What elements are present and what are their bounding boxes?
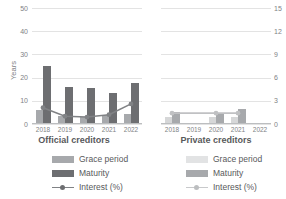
- interest-data-point: [170, 111, 175, 116]
- legend-marker-interest-official: [52, 184, 74, 191]
- chart-root: 50 40 30 20 10 0 Years 20182019202020212…: [0, 0, 286, 199]
- panel-official-creditors: 50 40 30 20 10 0 Years 20182019202020212…: [0, 0, 150, 140]
- plot-area-private: [161, 8, 271, 124]
- y-tick-right-1: 12: [274, 28, 286, 35]
- legend-swatch-grace-period-private: [186, 156, 208, 163]
- legend-swatch-grace-period-official: [52, 156, 74, 163]
- panel-title-official: Official creditors: [14, 135, 134, 145]
- panel-private-creditors: 15 12 9 6 3 0 20182019202020212022 Priva…: [150, 0, 286, 140]
- plot-area-official: [32, 8, 142, 124]
- interest-data-point: [41, 105, 46, 110]
- interest-data-point: [63, 114, 68, 119]
- legend-item-interest-official: Interest (%): [52, 180, 128, 194]
- x-tick-label: 2022: [118, 126, 144, 133]
- interest-data-point: [214, 111, 219, 116]
- legend-swatch-maturity-official: [52, 170, 74, 177]
- y-tick-left-2: 30: [6, 51, 28, 58]
- legend-item-maturity-private: Maturity: [186, 166, 262, 180]
- grid-line: [32, 124, 142, 125]
- y-tick-left-1: 40: [6, 28, 28, 35]
- legend-label-grace-period-official: Grace period: [79, 155, 128, 164]
- y-tick-left-0: 50: [6, 5, 28, 12]
- legend-item-interest-private: Interest (%): [186, 180, 262, 194]
- y-tick-right-5: 0: [274, 121, 286, 128]
- legend-item-grace-period-private: Grace period: [186, 152, 262, 166]
- interest-data-point: [236, 111, 241, 116]
- interest-data-point: [107, 112, 112, 117]
- interest-line-private: [161, 8, 271, 124]
- panel-title-private: Private creditors: [150, 135, 282, 145]
- grid-line: [161, 124, 271, 125]
- y-tick-right-2: 9: [274, 51, 286, 58]
- legend-label-interest-official: Interest (%): [79, 183, 123, 192]
- legend-label-grace-period-private: Grace period: [213, 155, 262, 164]
- legend-private: Grace period Maturity Interest (%): [186, 152, 262, 194]
- legend-item-grace-period-official: Grace period: [52, 152, 128, 166]
- legend-swatch-maturity-private: [186, 170, 208, 177]
- interest-data-point: [129, 101, 134, 106]
- legend-label-maturity-official: Maturity: [79, 169, 109, 178]
- x-axis-baseline-private: [161, 123, 271, 124]
- legend-marker-interest-private: [186, 184, 208, 191]
- y-tick-right-0: 15: [274, 5, 286, 12]
- legend-official: Grace period Maturity Interest (%): [52, 152, 128, 194]
- y-tick-left-4: 10: [6, 97, 28, 104]
- legend-label-interest-private: Interest (%): [213, 183, 257, 192]
- interest-data-point: [85, 115, 90, 120]
- y-axis-title: Years: [9, 61, 18, 80]
- x-tick-label: 2022: [247, 126, 273, 133]
- y-tick-right-3: 6: [274, 74, 286, 81]
- legend-label-maturity-private: Maturity: [213, 169, 243, 178]
- legend-item-maturity-official: Maturity: [52, 166, 128, 180]
- x-axis-baseline-official: [32, 123, 142, 124]
- y-tick-left-5: 0: [6, 121, 28, 128]
- interest-line-official: [32, 8, 142, 124]
- y-tick-right-4: 3: [274, 97, 286, 104]
